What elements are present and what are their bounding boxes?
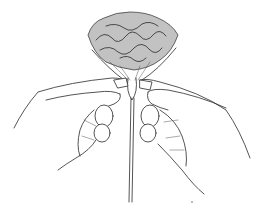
ink-speck bbox=[191, 201, 192, 202]
tape-wrap-left bbox=[114, 78, 128, 88]
tape-wrap-right bbox=[140, 80, 152, 90]
paper-flower-illustration bbox=[0, 0, 263, 211]
wire-stem bbox=[129, 98, 134, 202]
illustration-canvas bbox=[0, 0, 263, 211]
left-hand bbox=[14, 78, 126, 170]
right-hand bbox=[140, 79, 250, 194]
